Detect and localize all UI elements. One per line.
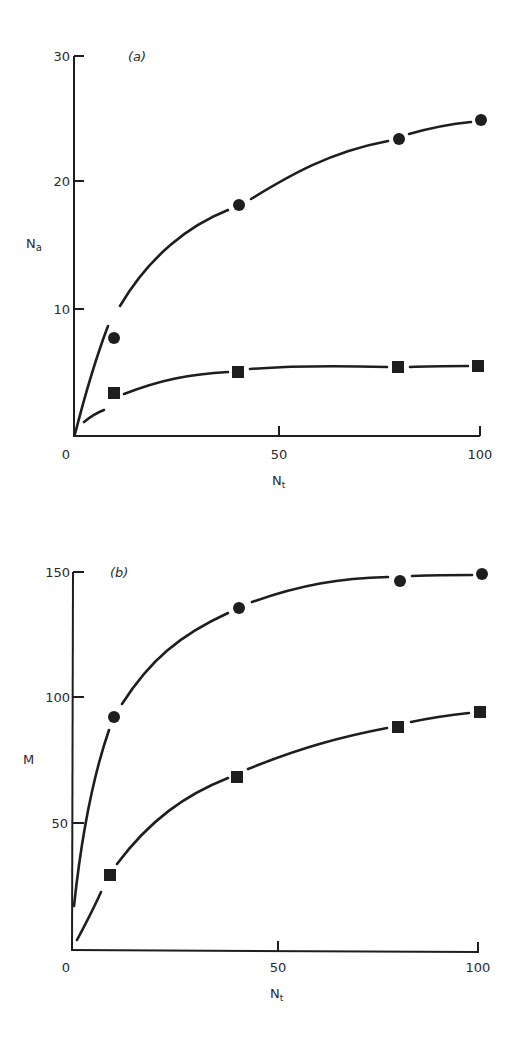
chart-b-circle-marker bbox=[394, 575, 406, 587]
chart-b-circle-marker bbox=[108, 711, 120, 723]
chart-a-x-tick-label-50: 50 bbox=[271, 447, 288, 462]
chart-a-y-tick-label-10: 10 bbox=[53, 302, 70, 317]
chart-a: 30 20 10 0 50 100 Na Nt (a) bbox=[26, 49, 492, 490]
chart-b-square-marker bbox=[104, 869, 116, 881]
chart-a-square-marker bbox=[472, 360, 484, 372]
chart-b-y-axis bbox=[72, 572, 73, 950]
chart-b-y-tick-label-150: 150 bbox=[45, 565, 70, 580]
chart-a-x-tick-label-100: 100 bbox=[468, 447, 493, 462]
chart-b-square-curve bbox=[117, 778, 228, 864]
chart-a-y-axis-label: Na bbox=[26, 236, 42, 253]
chart-a-circle-curve bbox=[251, 141, 388, 199]
chart-b-circle-curve bbox=[252, 577, 388, 602]
chart-a-circle-curve bbox=[409, 122, 471, 134]
chart-b-x-tick-label-50: 50 bbox=[270, 960, 287, 975]
chart-a-y-tick-label-30: 30 bbox=[53, 49, 70, 64]
chart-b-circle-marker bbox=[233, 602, 245, 614]
chart-b-square-marker bbox=[474, 706, 486, 718]
chart-a-circle-marker bbox=[233, 199, 245, 211]
chart-b-circle-curve bbox=[122, 613, 228, 704]
chart-a-square-marker bbox=[108, 387, 120, 399]
chart-a-x-tick-label-0: 0 bbox=[62, 447, 70, 462]
chart-b-y-tick-label-100: 100 bbox=[45, 690, 70, 705]
chart-b-square-marker bbox=[392, 721, 404, 733]
chart-b-circle-curve bbox=[74, 730, 109, 906]
chart-b-circle-curve bbox=[412, 575, 472, 576]
chart-a-circle-marker bbox=[393, 133, 405, 145]
figure: 30 20 10 0 50 100 Na Nt (a) bbox=[0, 0, 522, 1043]
chart-b: 150 100 50 0 50 100 M Nt (b) bbox=[23, 565, 490, 1003]
chart-a-square-curve bbox=[410, 366, 468, 367]
chart-b-square-curve bbox=[248, 728, 387, 769]
chart-a-panel-label: (a) bbox=[128, 49, 146, 64]
chart-a-circle-curve bbox=[120, 210, 228, 306]
chart-b-square-curve bbox=[77, 892, 101, 940]
chart-b-x-tick-label-0: 0 bbox=[62, 960, 70, 975]
chart-a-x-axis-label: Nt bbox=[272, 473, 286, 490]
chart-b-x-axis-label: Nt bbox=[270, 986, 284, 1003]
chart-b-square-marker bbox=[231, 771, 243, 783]
chart-b-panel-label: (b) bbox=[110, 565, 128, 580]
chart-a-circle-marker bbox=[108, 332, 120, 344]
chart-a-circle-marker bbox=[475, 114, 487, 126]
chart-b-square-curve bbox=[411, 713, 469, 722]
chart-a-square-curve bbox=[250, 366, 387, 369]
chart-a-square-curve bbox=[124, 372, 228, 394]
chart-a-y-tick-label-20: 20 bbox=[53, 174, 70, 189]
chart-a-square-curve bbox=[84, 410, 104, 422]
chart-a-square-marker bbox=[232, 366, 244, 378]
chart-a-square-marker bbox=[392, 361, 404, 373]
chart-b-circle-marker bbox=[476, 568, 488, 580]
chart-b-y-axis-label: M bbox=[23, 752, 34, 767]
chart-b-x-axis bbox=[71, 950, 479, 952]
chart-b-y-tick-label-50: 50 bbox=[51, 816, 68, 831]
chart-b-x-tick-label-100: 100 bbox=[466, 960, 491, 975]
